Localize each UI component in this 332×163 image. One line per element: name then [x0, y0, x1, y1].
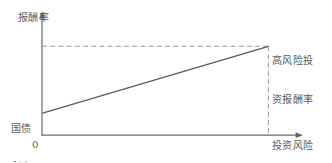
y-axis	[39, 11, 45, 136]
y-axis-title: 报酬率	[18, 12, 31, 25]
risk-return-line	[43, 46, 269, 113]
figure-canvas: 报酬率 国债 利率 高风险投 资报酬率 投资风险 0	[0, 0, 332, 162]
risk-free-rate-label: 国债 利率	[4, 98, 38, 162]
x-axis-title: 投资风险	[272, 140, 314, 151]
risk-free-rate-label-line1: 国债	[4, 123, 38, 136]
x-axis	[41, 132, 303, 138]
high-risk-return-label: 高风险投 资报酬率	[272, 28, 328, 132]
high-risk-return-label-line2: 资报酬率	[272, 93, 328, 106]
risk-free-rate-label-line2: 利率	[4, 161, 38, 163]
origin-tick-label: 0	[32, 139, 39, 150]
high-risk-return-label-line1: 高风险投	[272, 54, 328, 67]
x-axis-arrow-icon	[296, 132, 303, 138]
